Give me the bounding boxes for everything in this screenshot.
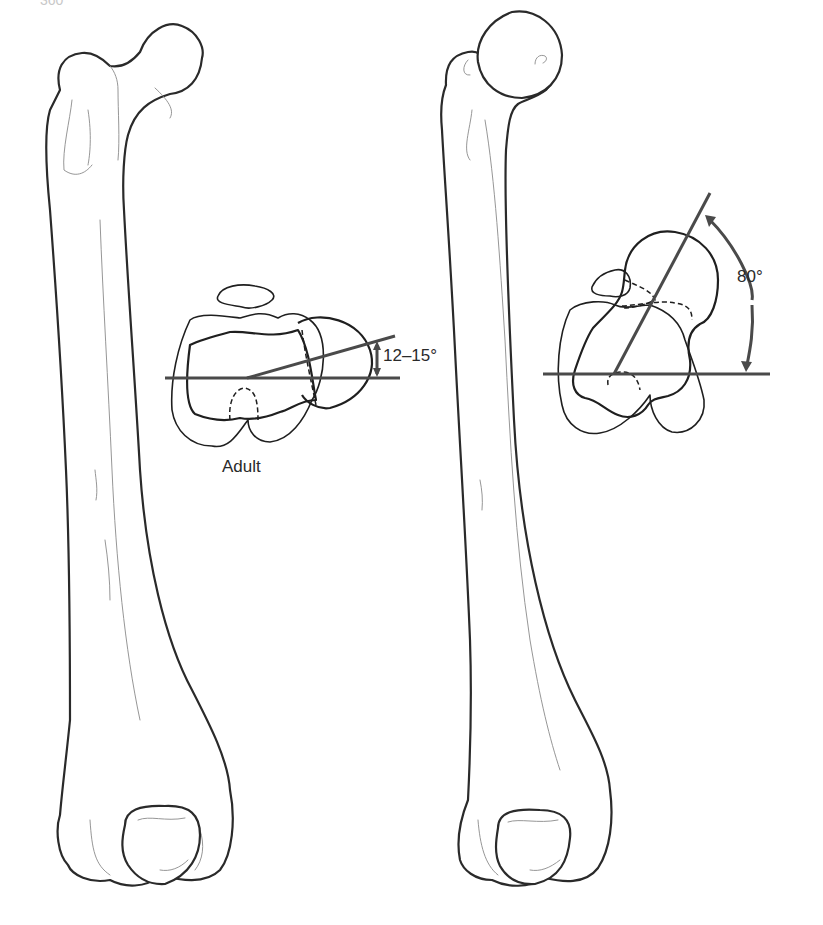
anteverted-cross-section xyxy=(543,193,770,433)
right-femur xyxy=(441,11,611,885)
adult-cross-section xyxy=(165,285,400,447)
figure-canvas xyxy=(0,0,823,925)
adult-section-label: Adult xyxy=(222,458,261,475)
adult-angle-label: 12–15° xyxy=(383,347,437,364)
anteversion-angle-label: 80° xyxy=(737,268,763,285)
left-femur xyxy=(46,24,233,885)
